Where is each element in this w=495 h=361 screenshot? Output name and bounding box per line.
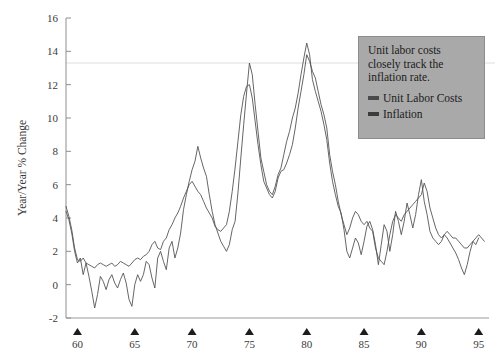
x-tick-label: 70 xyxy=(187,338,199,350)
y-axis-title: Year/Year % Change xyxy=(16,120,29,216)
chart-container: -202468101214166065707580859095Year/Year… xyxy=(0,0,495,361)
x-tick-label: 75 xyxy=(244,338,256,350)
x-tick-triangle xyxy=(417,328,426,335)
y-tick-label: 4 xyxy=(53,212,59,224)
legend-entry-unit-labor-costs: Unit Labor Costs xyxy=(368,92,476,104)
y-tick-label: 0 xyxy=(53,279,59,291)
x-tick-triangle xyxy=(73,328,82,335)
x-tick-triangle xyxy=(245,328,254,335)
legend-swatch-unit-labor-costs xyxy=(368,96,379,100)
y-tick-label: 14 xyxy=(47,45,59,57)
x-tick-triangle xyxy=(130,328,139,335)
legend-label-inflation: Inflation xyxy=(383,108,423,120)
chart-legend: Unit labor costs closely track the infla… xyxy=(358,36,485,139)
legend-label-unit-labor-costs: Unit Labor Costs xyxy=(383,92,462,104)
y-tick-label: 12 xyxy=(47,79,58,91)
legend-entry-inflation: Inflation xyxy=(368,108,476,120)
x-tick-triangle xyxy=(188,328,197,335)
x-tick-label: 95 xyxy=(473,338,485,350)
x-tick-triangle xyxy=(474,328,483,335)
x-tick-label: 80 xyxy=(301,338,313,350)
legend-caption: Unit labor costs closely track the infla… xyxy=(368,44,476,85)
x-tick-triangle xyxy=(360,328,369,335)
x-tick-label: 60 xyxy=(72,338,84,350)
x-tick-label: 65 xyxy=(129,338,141,350)
y-tick-label: 8 xyxy=(53,145,59,157)
x-tick-label: 85 xyxy=(359,338,371,350)
x-tick-triangle xyxy=(302,328,311,335)
y-tick-label: -2 xyxy=(49,312,58,324)
y-tick-label: 6 xyxy=(53,179,59,191)
x-tick-label: 90 xyxy=(416,338,428,350)
y-tick-label: 10 xyxy=(47,112,59,124)
y-tick-label: 2 xyxy=(53,245,59,257)
legend-swatch-inflation xyxy=(368,112,379,116)
y-tick-label: 16 xyxy=(47,12,59,24)
